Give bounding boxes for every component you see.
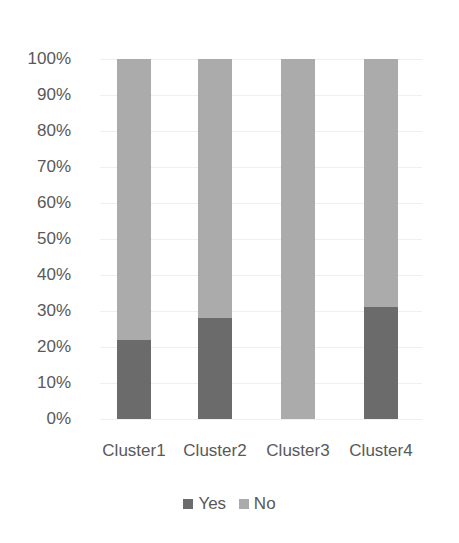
bar-segment-yes <box>117 340 151 419</box>
stacked-bar-chart: 0%10%20%30%40%50%60%70%80%90%100% Cluste… <box>0 0 459 543</box>
y-tick-label: 30% <box>1 302 71 320</box>
legend-swatch-yes <box>183 499 193 509</box>
gridline <box>100 419 422 420</box>
y-tick-label: 100% <box>1 50 71 68</box>
y-tick-label: 0% <box>1 410 71 428</box>
legend-label-no: No <box>254 494 276 514</box>
y-tick-label: 50% <box>1 230 71 248</box>
bar-segment-no <box>281 59 315 419</box>
bar-segment-no <box>198 59 232 318</box>
bar-segment-yes <box>198 318 232 419</box>
x-tick-label: Cluster2 <box>173 441 257 461</box>
legend-swatch-no <box>239 499 249 509</box>
legend: Yes No <box>0 494 459 514</box>
legend-label-yes: Yes <box>198 494 226 514</box>
bar-segment-no <box>117 59 151 340</box>
x-tick-label: Cluster3 <box>256 441 340 461</box>
legend-item-no: No <box>239 494 276 514</box>
y-tick-label: 40% <box>1 266 71 284</box>
bar-segment-yes <box>364 307 398 419</box>
y-tick-label: 60% <box>1 194 71 212</box>
y-tick-label: 10% <box>1 374 71 392</box>
y-tick-label: 90% <box>1 86 71 104</box>
bar-cluster3 <box>281 59 315 419</box>
bar-cluster4 <box>364 59 398 419</box>
x-tick-label: Cluster4 <box>339 441 423 461</box>
y-tick-label: 80% <box>1 122 71 140</box>
bar-cluster1 <box>117 59 151 419</box>
y-tick-label: 20% <box>1 338 71 356</box>
legend-item-yes: Yes <box>183 494 226 514</box>
bar-cluster2 <box>198 59 232 419</box>
bar-segment-no <box>364 59 398 307</box>
x-tick-label: Cluster1 <box>92 441 176 461</box>
y-tick-label: 70% <box>1 158 71 176</box>
